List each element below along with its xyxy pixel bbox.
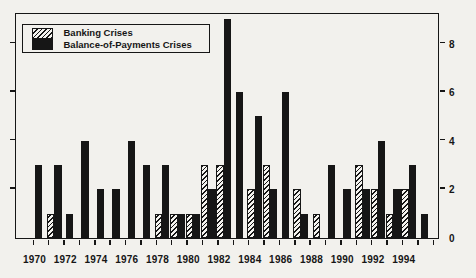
bar-banking-1984 (247, 189, 254, 238)
x-axis-tick (48, 240, 50, 245)
x-axis-tick (109, 240, 111, 245)
right-axis-label-6: 6 (449, 87, 455, 98)
year-slot-1994 (401, 14, 416, 238)
bar-banking-1992 (371, 189, 378, 238)
bar-bop-1978 (162, 165, 169, 238)
bar-bop-1987 (301, 214, 308, 238)
x-axis-tick (325, 240, 327, 245)
legend-label-bop: Balance-of-Payments Crises (64, 39, 192, 51)
bar-bop-1995 (421, 214, 428, 238)
x-axis-tick (186, 240, 188, 245)
year-slot-1987 (293, 14, 308, 238)
x-axis-tick (202, 240, 204, 245)
year-slot-1986 (278, 14, 293, 238)
bar-banking-1979 (170, 214, 177, 238)
x-axis-label-1980: 1980 (177, 254, 200, 265)
bar-bop-1974 (97, 189, 104, 238)
bar-bop-1990 (343, 189, 350, 238)
legend: Banking Crises Balance-of-Payments Crise… (22, 24, 210, 53)
bar-banking-1987 (293, 189, 300, 238)
x-axis-label-1988: 1988 (300, 254, 323, 265)
bar-bop-1989 (328, 165, 335, 238)
year-slot-1983 (231, 14, 246, 238)
bar-bop-1983 (236, 92, 243, 238)
bar-bop-1971 (54, 165, 61, 238)
bar-bop-1984 (255, 116, 262, 238)
right-axis-label-8: 8 (449, 38, 455, 49)
right-axis-label-0: 0 (449, 232, 455, 243)
bar-bop-1981 (208, 189, 215, 238)
x-axis-tick (248, 240, 250, 245)
right-axis-label-4: 4 (449, 135, 455, 146)
year-slot-1990 (339, 14, 354, 238)
x-axis-label-1974: 1974 (85, 254, 108, 265)
x-axis-label-1982: 1982 (208, 254, 231, 265)
bar-banking-1981 (201, 165, 208, 238)
x-axis-label-1972: 1972 (54, 254, 77, 265)
x-axis-tick (340, 240, 342, 245)
legend-swatch-bop-solid-icon (32, 39, 53, 50)
year-slot-1992 (370, 14, 385, 238)
x-axis-label-1992: 1992 (361, 254, 384, 265)
bar-bop-1992 (378, 141, 385, 238)
bar-banking-1991 (355, 165, 362, 238)
x-axis-tick (402, 240, 404, 245)
x-axis-tick (294, 240, 296, 245)
x-axis-label-1986: 1986 (269, 254, 292, 265)
legend-labels: Banking Crises Balance-of-Payments Crise… (64, 27, 192, 50)
bar-banking-1980 (186, 214, 193, 238)
bar-bop-1970 (35, 165, 42, 238)
y-axis-tick-left (10, 139, 15, 141)
x-axis-tick (171, 240, 173, 245)
x-axis-label-1978: 1978 (146, 254, 169, 265)
legend-swatch-banking-hatched-icon (32, 28, 53, 39)
bar-bop-1985 (270, 189, 277, 238)
y-axis-tick-left (10, 187, 15, 189)
x-axis-tick (140, 240, 142, 245)
bar-banking-1985 (263, 165, 270, 238)
year-slot-1993 (386, 14, 401, 238)
x-axis-tick (433, 240, 435, 245)
x-axis-tick (33, 240, 35, 245)
year-slot-1982 (216, 14, 231, 238)
x-axis-label-1990: 1990 (331, 254, 354, 265)
bar-bop-1973 (81, 141, 88, 238)
bar-bop-1986 (282, 92, 289, 238)
x-axis-tick (371, 240, 373, 245)
year-slot-1984 (247, 14, 262, 238)
x-axis-tick (356, 240, 358, 245)
year-slot-1995 (417, 14, 432, 238)
bar-bop-1975 (112, 189, 119, 238)
bar-banking-1978 (155, 214, 162, 238)
x-axis-label-1970: 1970 (23, 254, 46, 265)
year-slot-1989 (324, 14, 339, 238)
x-axis-tick (217, 240, 219, 245)
bar-bop-1980 (193, 214, 200, 238)
y-axis-tick-left (10, 42, 15, 44)
legend-label-banking: Banking Crises (64, 27, 192, 39)
x-axis-tick (94, 240, 96, 245)
figure-banking-bop-crises: Banking Crises Balance-of-Payments Crise… (0, 0, 476, 278)
y-axis-tick-right (440, 42, 445, 44)
plot-area: Banking Crises Balance-of-Payments Crise… (15, 13, 439, 239)
bar-banking-1993 (386, 214, 393, 238)
x-axis-tick (125, 240, 127, 245)
bar-banking-1994 (401, 189, 408, 238)
bar-banking-1971 (47, 214, 54, 238)
x-axis-label-1984: 1984 (238, 254, 261, 265)
y-axis-tick-right (440, 139, 445, 141)
bar-banking-1988 (313, 214, 320, 238)
bar-bop-1976 (128, 141, 135, 238)
bar-bop-1993 (393, 189, 400, 238)
x-axis-tick (233, 240, 235, 245)
x-axis-tick (79, 240, 81, 245)
y-axis-tick-left (10, 90, 15, 92)
right-axis-label-2: 2 (449, 184, 455, 195)
bar-bop-1977 (143, 165, 150, 238)
bar-banking-1982 (216, 165, 223, 238)
bar-bop-1982 (224, 19, 231, 238)
year-slot-1985 (262, 14, 277, 238)
y-axis-tick-right (440, 187, 445, 189)
x-axis-tick (263, 240, 265, 245)
x-axis-tick (386, 240, 388, 245)
